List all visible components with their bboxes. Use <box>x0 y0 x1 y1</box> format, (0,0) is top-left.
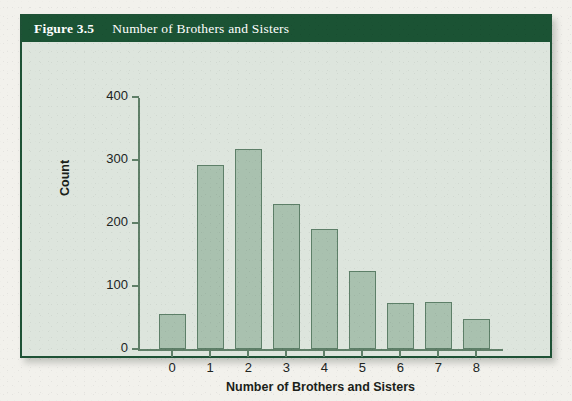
bar <box>273 204 300 349</box>
y-axis-tick-mark <box>132 159 139 161</box>
x-axis-tick-mark <box>361 351 363 357</box>
bar <box>349 271 376 349</box>
y-axis-tick-mark <box>132 222 139 224</box>
figure-caption-label: Number of Brothers and Sisters <box>112 21 289 37</box>
x-axis-tick-mark <box>323 351 325 357</box>
bar <box>387 303 414 349</box>
bar <box>159 314 186 349</box>
y-axis-tick-mark <box>132 96 139 98</box>
x-axis-tick-label: 3 <box>271 360 301 375</box>
x-axis-tick-label: 5 <box>347 360 377 375</box>
bar <box>235 149 262 349</box>
figure-header-bar: Figure 3.5 Number of Brothers and Sister… <box>22 16 550 42</box>
x-axis-tick-label: 7 <box>423 360 453 375</box>
figure-container: Figure 3.5 Number of Brothers and Sister… <box>20 14 552 358</box>
y-axis-ticks: 0100200300400 <box>22 42 140 356</box>
bar <box>197 165 224 349</box>
plot-body: 0100200300400 012345678 Count Number of … <box>22 42 550 356</box>
y-axis-title: Count <box>58 160 72 196</box>
figure-number-label: Figure 3.5 <box>34 21 94 37</box>
x-axis-tick-mark <box>171 351 173 357</box>
bar-chart-plot-area: 0100200300400 012345678 Count Number of … <box>22 42 550 356</box>
y-axis-tick-label: 400 <box>68 88 128 103</box>
x-axis-tick-mark <box>399 351 401 357</box>
x-axis-tick-mark <box>475 351 477 357</box>
y-axis-tick-label: 200 <box>68 214 128 229</box>
y-axis-tick-label: 100 <box>68 277 128 292</box>
x-axis-tick-label: 0 <box>157 360 187 375</box>
y-axis-tick-mark <box>132 348 139 350</box>
x-axis-tick-mark <box>209 351 211 357</box>
y-axis-tick-mark <box>132 285 139 287</box>
x-axis-line <box>138 349 503 351</box>
y-axis-tick-label: 0 <box>68 340 128 355</box>
x-axis-tick-mark <box>247 351 249 357</box>
x-axis-tick-label: 1 <box>195 360 225 375</box>
x-axis-title: Number of Brothers and Sisters <box>138 380 503 394</box>
bar <box>425 302 452 349</box>
bar <box>463 319 490 349</box>
x-axis-tick-label: 6 <box>385 360 415 375</box>
x-axis-tick-mark <box>437 351 439 357</box>
x-axis-tick-label: 4 <box>309 360 339 375</box>
y-axis-tick-label: 300 <box>68 151 128 166</box>
x-axis-tick-label: 8 <box>461 360 491 375</box>
bar <box>311 229 338 349</box>
x-axis-tick-label: 2 <box>233 360 263 375</box>
x-axis-tick-mark <box>285 351 287 357</box>
figure-card: Figure 3.5 Number of Brothers and Sister… <box>20 14 552 358</box>
